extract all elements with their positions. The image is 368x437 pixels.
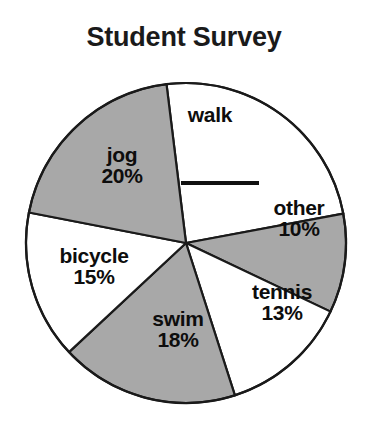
slice-value-other: 10% xyxy=(246,218,352,239)
slice-label-other: other 10% xyxy=(246,197,352,240)
pie-slice-group xyxy=(26,83,346,403)
slice-name-walk: walk xyxy=(150,104,270,125)
slice-label-walk: walk xyxy=(150,104,270,125)
slice-name-bicycle: bicycle xyxy=(28,245,160,266)
slice-name-other: other xyxy=(246,197,352,218)
slice-name-swim: swim xyxy=(120,308,236,329)
slice-name-tennis: tennis xyxy=(226,281,338,302)
slice-label-swim: swim 18% xyxy=(120,308,236,351)
slice-value-swim: 18% xyxy=(120,329,236,350)
slice-label-jog: jog 20% xyxy=(72,144,172,187)
pie-chart-figure: Student Survey walk jog 20% bicycle 15% … xyxy=(0,0,368,437)
slice-value-bicycle: 15% xyxy=(28,266,160,287)
slice-name-jog: jog xyxy=(72,144,172,165)
walk-percent-blank-line xyxy=(181,181,259,185)
slice-label-bicycle: bicycle 15% xyxy=(28,245,160,288)
slice-value-tennis: 13% xyxy=(226,302,338,323)
slice-value-jog: 20% xyxy=(72,165,172,186)
slice-label-tennis: tennis 13% xyxy=(226,281,338,324)
